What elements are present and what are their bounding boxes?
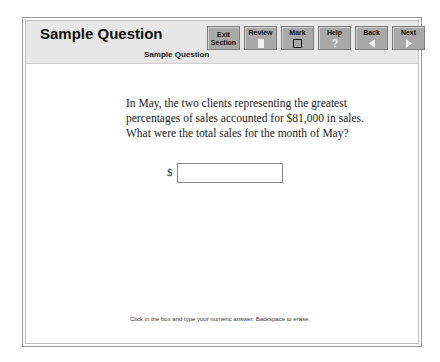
review-button[interactable]: Review	[244, 26, 277, 50]
toolbar: Exit Section Review Mark Help ?	[207, 26, 425, 50]
arrow-right-icon	[405, 38, 413, 48]
back-button[interactable]: Back	[355, 26, 388, 50]
section-subtitle: Sample Question	[144, 50, 209, 59]
mark-button[interactable]: Mark	[281, 26, 314, 50]
question-mark-icon: ?	[331, 38, 339, 48]
currency-symbol: $	[167, 166, 173, 178]
review-label: Review	[248, 29, 272, 37]
review-icon	[258, 38, 264, 48]
help-label: Help	[327, 29, 342, 37]
numeric-answer-input[interactable]	[177, 163, 283, 183]
app-title: Sample Question	[40, 25, 163, 42]
back-label: Back	[363, 29, 380, 37]
question-text: In May, the two clients representing the…	[126, 96, 376, 141]
exit-section-button[interactable]: Exit Section	[207, 26, 240, 50]
help-button[interactable]: Help ?	[318, 26, 351, 50]
header-bar: Sample Question Sample Question Exit Sec…	[26, 21, 418, 64]
exit-label-line1: Exit	[217, 31, 230, 39]
mark-label: Mark	[289, 29, 305, 37]
checkbox-icon	[293, 38, 302, 48]
arrow-left-icon	[368, 38, 376, 48]
next-label: Next	[401, 29, 416, 37]
exit-label-line2: Section	[211, 39, 236, 47]
instruction-text: Click in the box and type your numeric a…	[0, 316, 440, 322]
svg-text:?: ?	[332, 38, 338, 48]
next-button[interactable]: Next	[392, 26, 425, 50]
